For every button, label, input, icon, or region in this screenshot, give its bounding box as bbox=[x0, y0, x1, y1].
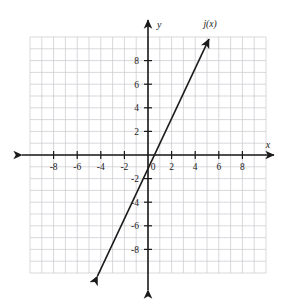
x-tick-label-neg8: -8 bbox=[50, 162, 58, 172]
y-tick-label-neg2: -2 bbox=[131, 174, 139, 184]
y-tick-label-neg6: -6 bbox=[131, 221, 139, 231]
graph-canvas: -8 -6 -4 -2 0 2 4 6 8 8 6 4 2 -2 -4 -6 -… bbox=[0, 0, 296, 303]
x-tick-label-pos2: 2 bbox=[169, 162, 174, 172]
x-tick-label-neg4: -4 bbox=[97, 162, 105, 172]
x-tick-label-pos8: 8 bbox=[240, 162, 245, 172]
y-tick-label-neg8: -8 bbox=[131, 245, 139, 255]
x-axis-label: x bbox=[265, 139, 271, 150]
origin-label: 0 bbox=[151, 162, 156, 172]
y-tick-label-pos4: 4 bbox=[134, 103, 139, 113]
y-tick-label-pos6: 6 bbox=[134, 80, 139, 90]
x-tick-label-neg2: -2 bbox=[120, 162, 128, 172]
x-tick-label-pos6: 6 bbox=[216, 162, 221, 172]
x-tick-label-pos4: 4 bbox=[193, 162, 198, 172]
y-tick-label-pos8: 8 bbox=[134, 56, 139, 66]
line-j-of-x bbox=[98, 39, 210, 276]
y-tick-label-pos2: 2 bbox=[134, 127, 139, 137]
coordinate-plane-graph: -8 -6 -4 -2 0 2 4 6 8 8 6 4 2 -2 -4 -6 -… bbox=[0, 0, 296, 303]
y-axis-label: y bbox=[156, 19, 162, 30]
series-label-j-of-x: j(x) bbox=[201, 19, 216, 30]
x-tick-label-neg6: -6 bbox=[73, 162, 81, 172]
